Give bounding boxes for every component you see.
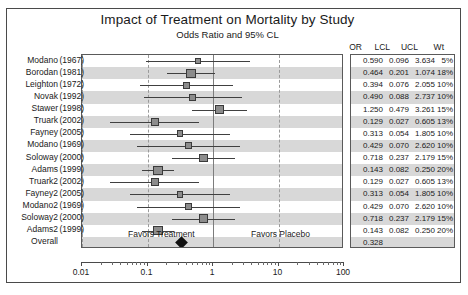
axis-tick-major — [278, 262, 279, 266]
study-year-label: (1999) — [44, 164, 84, 174]
axis-tick-label: 10 — [258, 267, 298, 277]
axis-tick-minor — [340, 262, 341, 265]
axis-tick-minor — [328, 262, 329, 265]
study-year-label: (2000) — [44, 212, 84, 222]
axis-tick-major — [343, 262, 344, 266]
effect-marker — [151, 178, 159, 186]
axis-tick-minor — [120, 262, 121, 265]
cell-wt: 10% — [429, 80, 453, 89]
axis-tick-label: 100 — [323, 267, 363, 277]
axis-tick-minor — [243, 262, 244, 265]
cell-wt: 10% — [429, 141, 453, 150]
axis-tick-minor — [136, 262, 137, 265]
axis-tick-minor — [297, 262, 298, 265]
cell-wt: 20% — [429, 165, 453, 174]
cell-wt: 18% — [429, 68, 453, 77]
study-year-label: (1972) — [44, 79, 84, 89]
chart-subtitle: Odds Ratio and 95% CL — [0, 29, 455, 40]
axis-tick-minor — [112, 262, 113, 265]
study-year-label: (1999) — [44, 224, 84, 234]
effect-marker — [177, 130, 184, 137]
axis-tick-minor — [132, 262, 133, 265]
effect-marker — [183, 82, 190, 89]
axis-tick-minor — [275, 262, 276, 265]
column-header-lcl: LCL — [368, 42, 390, 52]
axis-tick-label: 0.1 — [127, 267, 167, 277]
favors-placebo-label: Favors Placebo — [251, 229, 310, 239]
axis-tick-minor — [251, 262, 252, 265]
cell-wt: 13% — [429, 117, 453, 126]
gridline — [279, 55, 280, 247]
effect-marker — [199, 154, 208, 163]
effect-marker — [151, 118, 159, 126]
cell-wt: 13% — [429, 177, 453, 186]
axis-tick-minor — [267, 262, 268, 265]
effect-marker — [186, 69, 196, 78]
forest-plot-figure: Impact of Treatment on Mortality by Stud… — [0, 0, 468, 295]
chart-title: Impact of Treatment on Mortality by Stud… — [0, 12, 455, 27]
study-year-label: (2005) — [44, 188, 84, 198]
row-band — [82, 164, 342, 176]
axis-tick-minor — [144, 262, 145, 265]
effect-marker — [215, 105, 224, 114]
axis-tick-minor — [127, 262, 128, 265]
axis-tick-minor — [197, 262, 198, 265]
axis-tick-minor — [209, 262, 210, 265]
axis-tick-label: 1 — [192, 267, 232, 277]
axis-tick-minor — [166, 262, 167, 265]
axis-tick-label: 0.01 — [61, 267, 101, 277]
study-year-label: (2002) — [44, 176, 84, 186]
cell-wt: 15% — [429, 105, 453, 114]
effect-marker — [185, 203, 192, 210]
study-year-label: (1992) — [44, 91, 84, 101]
study-year-label: (1967) — [44, 55, 84, 65]
axis-tick-minor — [317, 262, 318, 265]
axis-tick-minor — [258, 262, 259, 265]
column-header-wt: Wt — [422, 42, 444, 52]
effect-marker — [185, 142, 192, 149]
cell-wt: 5% — [429, 56, 453, 65]
study-year-label: (1981) — [44, 67, 84, 77]
statistics-table: 0.5900.0963.6345%0.4640.2011.07418%0.394… — [350, 54, 455, 248]
axis-tick-minor — [309, 262, 310, 265]
axis-tick-minor — [192, 262, 193, 265]
effect-marker — [153, 166, 163, 175]
column-header-or: OR — [340, 42, 362, 52]
axis-tick-minor — [178, 262, 179, 265]
axis-tick-minor — [271, 262, 272, 265]
cell-wt: 20% — [429, 226, 453, 235]
axis-tick-minor — [323, 262, 324, 265]
cell-wt: 10% — [429, 189, 453, 198]
cell-wt: 10% — [429, 202, 453, 211]
effect-marker — [199, 214, 208, 223]
gridline — [148, 55, 149, 247]
cell-wt: 10% — [429, 92, 453, 101]
plot-area — [81, 54, 343, 248]
study-year-label: (2000) — [44, 152, 84, 162]
axis-tick-major — [147, 262, 148, 266]
axis-tick-minor — [101, 262, 102, 265]
effect-marker — [189, 94, 196, 101]
axis-tick-major — [81, 262, 82, 266]
study-year-label: (1969) — [44, 200, 84, 210]
study-year-label: (2005) — [44, 127, 84, 137]
effect-marker — [195, 58, 200, 63]
study-year-label: (2002) — [44, 115, 84, 125]
cell-wt: 15% — [429, 153, 453, 162]
cell-wt: 10% — [429, 129, 453, 138]
axis-tick-minor — [263, 262, 264, 265]
cell-wt: 15% — [429, 214, 453, 223]
study-year-label: (1998) — [44, 103, 84, 113]
axis-tick-minor — [202, 262, 203, 265]
study-year-label: (1969) — [44, 139, 84, 149]
axis-tick-minor — [186, 262, 187, 265]
axis-tick-minor — [232, 262, 233, 265]
axis-tick-major — [212, 262, 213, 266]
axis-tick-minor — [206, 262, 207, 265]
axis-tick-minor — [333, 262, 334, 265]
axis-tick-minor — [140, 262, 141, 265]
study-name-label: Overall — [0, 236, 58, 246]
axis-tick-minor — [337, 262, 338, 265]
favors-treatment-label: Favors Treatment — [128, 229, 195, 239]
cell-or: 0.328 — [353, 238, 383, 247]
